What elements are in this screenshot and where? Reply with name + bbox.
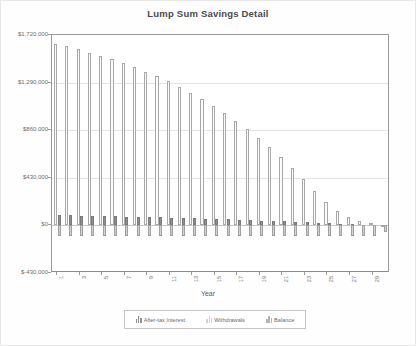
bar-balance [110, 59, 113, 225]
bar-withdrawals [159, 225, 162, 236]
bar-balance [223, 113, 226, 225]
x-axis-tick-mark [372, 272, 373, 275]
bar-balance [65, 46, 68, 225]
legend-item[interactable]: After-tax Interest [136, 316, 185, 323]
bar-withdrawals [182, 225, 185, 236]
x-axis-tick-mark [146, 272, 147, 275]
x-axis-title: Year [0, 290, 416, 297]
x-axis-tick-label: 27 [351, 276, 357, 282]
legend-item[interactable]: Balance [266, 316, 294, 323]
bar-balance [144, 72, 147, 226]
x-axis-tick-label: 29 [374, 276, 380, 282]
legend-bars-icon [136, 316, 142, 323]
bar-after-tax-interest [80, 216, 83, 226]
bar-withdrawals [283, 225, 286, 236]
x-axis-tick-label: 11 [171, 276, 177, 282]
legend-bars-icon [266, 316, 272, 323]
legend-label: After-tax Interest [144, 317, 185, 323]
gridline [52, 178, 388, 179]
bar-withdrawals [317, 225, 320, 236]
bar-balance [324, 202, 327, 225]
bar-balance [99, 56, 102, 225]
bar-withdrawals [294, 225, 297, 236]
x-axis-tick-label: 19 [261, 276, 267, 282]
bar-withdrawals [170, 225, 173, 236]
x-axis-tick-mark [169, 272, 170, 275]
x-axis-tick-mark [349, 272, 350, 275]
bar-after-tax-interest [103, 216, 106, 225]
bar-balance [178, 87, 181, 225]
y-axis-tick-label: $0 [0, 221, 48, 227]
bar-after-tax-interest [137, 217, 140, 226]
y-axis-tick-label: $1,720,000 [0, 31, 48, 37]
bar-balance [122, 63, 125, 225]
bar-balance [167, 81, 170, 225]
chart-container: Lump Sum Savings Detail $1,720,000$1,290… [0, 0, 416, 346]
x-axis-tick-mark [326, 272, 327, 275]
x-axis-tick-label: 17 [238, 276, 244, 282]
bar-after-tax-interest [148, 217, 151, 225]
y-axis-tick-label: $-430,000 [0, 269, 48, 275]
x-axis-tick-mark [304, 272, 305, 275]
x-axis: 1357911131517192123252729 [51, 272, 389, 302]
bar-balance [257, 138, 260, 225]
plot-area [51, 34, 389, 272]
bar-withdrawals [362, 225, 365, 236]
bar-withdrawals [80, 225, 83, 236]
bar-balance [88, 53, 91, 226]
bar-after-tax-interest [204, 219, 207, 226]
bar-withdrawals [328, 225, 331, 236]
x-axis-tick-mark [191, 272, 192, 275]
x-axis-tick-mark [101, 272, 102, 275]
x-axis-tick-label: 25 [328, 276, 334, 282]
bar-withdrawals [238, 225, 241, 236]
legend-item[interactable]: Withdrawals [206, 316, 244, 323]
chart-legend: After-tax InterestWithdrawalsBalance [124, 310, 306, 329]
bar-after-tax-interest [125, 217, 128, 226]
gridline [52, 130, 388, 131]
bar-balance [291, 168, 294, 226]
x-axis-tick-mark [259, 272, 260, 275]
chart-title: Lump Sum Savings Detail [0, 8, 416, 19]
bar-withdrawals [91, 225, 94, 236]
bar-withdrawals [215, 225, 218, 236]
bar-withdrawals [339, 225, 342, 236]
bar-withdrawals [204, 225, 207, 236]
bar-after-tax-interest [114, 216, 117, 225]
bar-after-tax-interest [182, 218, 185, 225]
x-axis-tick-label: 23 [306, 276, 312, 282]
gridline [52, 83, 388, 84]
x-axis-tick-label: 21 [283, 276, 289, 282]
x-axis-tick-label: 7 [126, 276, 132, 279]
x-axis-tick-mark [214, 272, 215, 275]
y-axis-tick-label: $860,000 [0, 126, 48, 132]
x-axis-tick-label: 15 [216, 276, 222, 282]
bar-withdrawals [103, 225, 106, 236]
x-axis-tick-label: 5 [103, 276, 109, 279]
bar-withdrawals [125, 225, 128, 236]
bar-balance [189, 93, 192, 225]
bar-balance [77, 49, 80, 225]
x-axis-tick-mark [236, 272, 237, 275]
bar-withdrawals [148, 225, 151, 236]
legend-bars-icon [206, 316, 212, 323]
bar-balance [234, 121, 237, 226]
bar-withdrawals [260, 225, 263, 236]
bar-balance [212, 106, 215, 226]
bar-balance [302, 179, 305, 225]
bar-withdrawals [58, 225, 61, 236]
bar-withdrawals [249, 225, 252, 236]
bar-withdrawals [227, 225, 230, 236]
bar-withdrawals [114, 225, 117, 236]
bar-withdrawals [69, 225, 72, 236]
bar-after-tax-interest [69, 215, 72, 225]
bar-balance [268, 147, 271, 225]
bar-balance [246, 129, 249, 225]
x-axis-tick-label: 3 [81, 276, 87, 279]
x-axis-tick-mark [281, 272, 282, 275]
bar-withdrawals [373, 225, 376, 236]
bar-withdrawals [351, 225, 354, 236]
bar-balance [313, 191, 316, 226]
bar-withdrawals [137, 225, 140, 236]
bar-withdrawals [272, 225, 275, 236]
